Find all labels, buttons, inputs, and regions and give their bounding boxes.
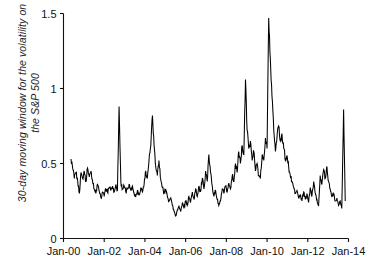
x-tick-label: Jan-00 xyxy=(47,245,81,257)
volatility-line-series xyxy=(71,18,345,216)
chart-axes xyxy=(60,14,349,243)
y-tick-label: 1.5 xyxy=(41,8,56,20)
x-tick-label: Jan-02 xyxy=(87,245,121,257)
x-tick-label: Jan-14 xyxy=(332,245,366,257)
y-axis-tick-labels: 00.511.5 xyxy=(41,8,56,245)
x-axis-tick-labels: Jan-00Jan-02Jan-04Jan-06Jan-08Jan-10Jan-… xyxy=(47,245,366,257)
x-tick-label: Jan-12 xyxy=(291,245,325,257)
y-tick-label: 0 xyxy=(50,233,56,245)
x-tick-label: Jan-10 xyxy=(250,245,284,257)
volatility-chart-figure: 30-day moving window for the volatility … xyxy=(0,0,375,267)
x-tick-label: Jan-04 xyxy=(128,245,162,257)
y-tick-label: 0.5 xyxy=(41,158,56,170)
x-tick-label: Jan-06 xyxy=(169,245,203,257)
chart-plot-area: 00.511.5 Jan-00Jan-02Jan-04Jan-06Jan-08J… xyxy=(0,0,375,267)
x-tick-label: Jan-08 xyxy=(210,245,244,257)
y-tick-label: 1 xyxy=(50,83,56,95)
